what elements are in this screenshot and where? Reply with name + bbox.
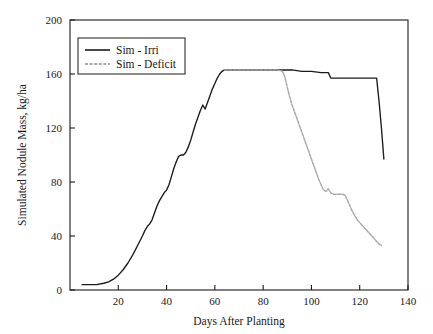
x-tick-label: 100 <box>303 295 320 307</box>
series-sim-irri <box>82 70 384 285</box>
data-series-layer <box>82 70 384 285</box>
x-tick-label: 120 <box>351 295 368 307</box>
x-tick-label: 140 <box>400 295 417 307</box>
y-tick-label: 0 <box>57 284 63 296</box>
y-axis-ticks <box>70 20 75 290</box>
x-tick-label: 40 <box>161 295 173 307</box>
y-axis-label: Simulated Nodule Mass, kg/ha <box>16 84 29 226</box>
y-axis-tick-labels: 04080120160200 <box>46 14 63 296</box>
x-tick-label: 20 <box>113 295 125 307</box>
x-axis-label: Days After Planting <box>193 315 285 328</box>
y-tick-label: 80 <box>51 176 63 188</box>
chart-figure: 20406080100120140 04080120160200 Days Af… <box>0 0 433 334</box>
chart-legend: Sim - Irri Sim - Deficit <box>78 38 185 74</box>
y-tick-label: 120 <box>46 122 63 134</box>
series-sim-deficit <box>225 70 382 246</box>
y-tick-label: 160 <box>46 68 63 80</box>
legend-label-sim-irri: Sim - Irri <box>116 44 159 56</box>
x-tick-label: 80 <box>258 295 270 307</box>
x-axis-ticks <box>118 285 408 290</box>
x-tick-label: 60 <box>209 295 221 307</box>
y-tick-label: 200 <box>46 14 63 26</box>
legend-label-sim-deficit: Sim - Deficit <box>116 58 177 70</box>
nodule-mass-line-chart: 20406080100120140 04080120160200 Days Af… <box>0 0 433 334</box>
x-axis-tick-labels: 20406080100120140 <box>113 295 417 307</box>
y-tick-label: 40 <box>51 230 63 242</box>
